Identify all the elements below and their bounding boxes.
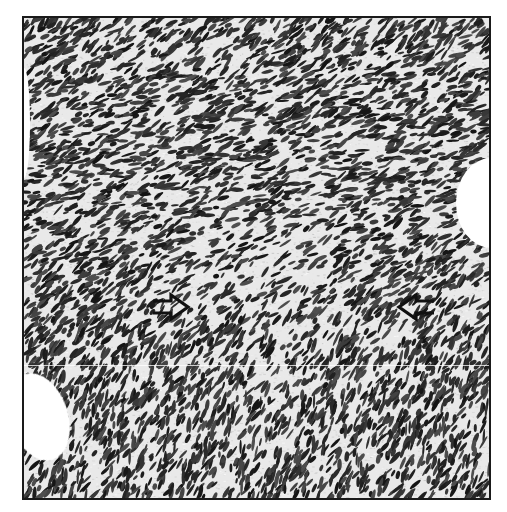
micrograph-frame [22, 16, 491, 500]
arrow-left-pointing-icon [396, 292, 436, 322]
panel-seam-line [24, 365, 489, 366]
tissue-texture [24, 18, 489, 498]
arrow-right-pointing-icon [151, 292, 191, 322]
